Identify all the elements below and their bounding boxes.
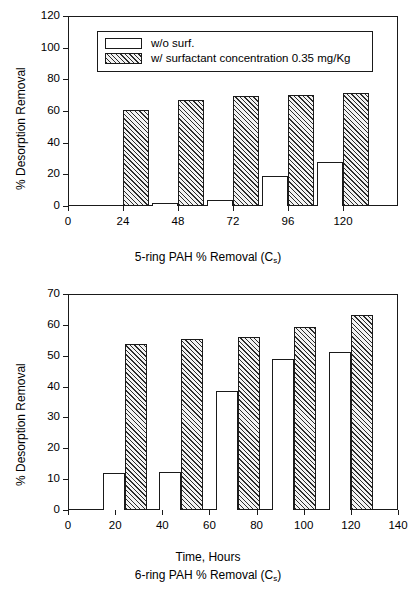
bar-plain (207, 200, 233, 206)
y-tick (63, 448, 68, 449)
x-tick (351, 510, 352, 515)
y-tick-label: 80 (24, 73, 60, 85)
y-tick-label: 50 (24, 350, 60, 362)
legend-entry-0: w/o surf. (105, 36, 365, 51)
legend-box: w/o surf. w/ surfactant concentration 0.… (97, 31, 373, 72)
x-tick-label: 140 (378, 520, 416, 532)
x-tick-label: 48 (158, 216, 198, 228)
bar-plain (329, 352, 351, 510)
chart-panel-top: 020406080100120 024487296120 % Desorptio… (0, 0, 416, 280)
bar-hatched (181, 339, 203, 510)
y-tick (63, 79, 68, 80)
x-tick-label: 0 (48, 216, 88, 228)
y-tick (63, 16, 68, 17)
legend-label-0: w/o surf. (151, 38, 194, 50)
y-tick (63, 356, 68, 357)
y-axis-title-top: % Desorption Removal (14, 67, 28, 190)
y-tick-label: 100 (24, 42, 60, 54)
y-tick-label: 40 (24, 381, 60, 393)
figure-canvas: 020406080100120 024487296120 % Desorptio… (0, 0, 416, 592)
bar-plain (262, 176, 288, 206)
x-tick (343, 206, 344, 211)
y-tick (63, 174, 68, 175)
figure-caption-text: 6-ring PAH % Removal (C (135, 568, 273, 582)
x-tick-label: 120 (331, 520, 371, 532)
y-tick-label: 20 (24, 442, 60, 454)
legend-swatch-plain-icon (105, 38, 142, 49)
y-tick-label: 20 (24, 168, 60, 180)
x-tick (398, 510, 399, 515)
x-tick-label: 100 (284, 520, 324, 532)
x-tick (257, 510, 258, 515)
legend-swatch-hatch-icon (105, 53, 142, 64)
x-tick-label: 80 (237, 520, 277, 532)
bar-hatched (294, 327, 316, 510)
x-tick (178, 206, 179, 211)
x-tick-label: 40 (142, 520, 182, 532)
x-tick-label: 20 (95, 520, 135, 532)
x-tick (233, 206, 234, 211)
x-tick-label: 24 (103, 216, 143, 228)
x-tick (68, 510, 69, 515)
x-tick-label: 120 (323, 216, 363, 228)
x-tick (162, 510, 163, 515)
bar-hatched (343, 93, 369, 206)
figure-caption-bottom: 6-ring PAH % Removal (Cs) (0, 568, 416, 583)
x-tick (123, 206, 124, 211)
y-tick-label: 70 (24, 288, 60, 300)
y-tick (63, 294, 68, 295)
y-tick (63, 325, 68, 326)
y-tick-label: 30 (24, 411, 60, 423)
y-tick-label: 0 (24, 200, 60, 212)
bar-hatched (233, 96, 259, 206)
bar-plain (216, 391, 238, 510)
x-tick (304, 510, 305, 515)
bar-hatched (288, 95, 314, 206)
legend-entry-1: w/ surfactant concentration 0.35 mg/Kg (105, 51, 365, 66)
y-tick (63, 417, 68, 418)
x-tick (115, 510, 116, 515)
figure-caption-tail: ) (277, 568, 281, 582)
x-tick-label: 96 (268, 216, 308, 228)
y-tick-label: 40 (24, 137, 60, 149)
x-tick-label: 72 (213, 216, 253, 228)
bar-plain (152, 203, 178, 206)
x-axis-title-top: 5-ring PAH % Removal (Cs) (0, 250, 416, 265)
x-axis-title-top-text: 5-ring PAH % Removal (C (135, 250, 273, 264)
bar-hatched (125, 344, 147, 510)
bar-plain (272, 359, 294, 510)
x-axis-title-bottom: Time, Hours (0, 550, 416, 564)
bar-hatched (123, 110, 149, 206)
y-tick (63, 479, 68, 480)
y-tick-label: 60 (24, 319, 60, 331)
x-axis-title-top-tail: ) (277, 250, 281, 264)
y-tick-label: 120 (24, 10, 60, 22)
y-tick-label: 0 (24, 504, 60, 516)
bar-hatched (351, 315, 373, 510)
bar-group-bottom (68, 294, 398, 510)
bar-plain (159, 472, 181, 510)
chart-panel-bottom: 010203040506070 020406080100120140 % Des… (0, 280, 416, 592)
bar-plain (103, 473, 125, 510)
y-axis-title-bottom: % Desorption Removal (14, 363, 28, 486)
y-tick (63, 48, 68, 49)
y-tick (63, 111, 68, 112)
bar-hatched (178, 100, 204, 206)
y-tick-label: 60 (24, 105, 60, 117)
bar-plain (317, 162, 343, 206)
y-tick-label: 10 (24, 473, 60, 485)
x-tick (288, 206, 289, 211)
y-tick (63, 387, 68, 388)
x-tick-label: 0 (48, 520, 88, 532)
x-tick (209, 510, 210, 515)
x-tick-label: 60 (189, 520, 229, 532)
legend-label-1: w/ surfactant concentration 0.35 mg/Kg (151, 53, 350, 65)
x-tick (68, 206, 69, 211)
bar-plain (97, 205, 123, 206)
bar-hatched (238, 337, 260, 510)
y-tick (63, 143, 68, 144)
